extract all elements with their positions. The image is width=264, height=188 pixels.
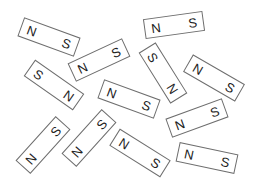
magnet-pole-left: S: [31, 66, 46, 82]
magnet-pole-right: S: [220, 155, 231, 170]
magnet-pole-right: N: [165, 81, 181, 96]
bar-magnet: N S: [176, 142, 239, 174]
magnet-pole-left: N: [117, 135, 132, 151]
magnet-pole-right: S: [140, 98, 153, 113]
bar-magnet: N S: [17, 17, 80, 56]
magnet-pole-right: S: [223, 80, 237, 96]
magnet-pole-left: N: [105, 85, 118, 100]
magnet-pole-left: N: [23, 151, 39, 167]
magnet-pole-right: S: [187, 15, 197, 29]
magnet-pole-right: N: [61, 87, 76, 103]
magnet-pole-left: N: [183, 147, 195, 162]
magnet-pole-right: S: [208, 104, 221, 119]
magnet-pole-left: N: [191, 61, 206, 77]
magnets-diagram: N S N S N S S N S N N S N S N S N S N S …: [0, 0, 264, 188]
magnet-pole-left: S: [145, 50, 161, 64]
bar-magnet: N S: [165, 98, 228, 137]
magnet-pole-left: N: [173, 117, 186, 132]
magnet-pole-right: S: [60, 36, 73, 51]
bar-magnet: N S: [109, 129, 170, 178]
magnet-pole-right: S: [94, 117, 109, 132]
magnet-pole-right: S: [48, 124, 63, 139]
magnet-pole-right: S: [109, 44, 122, 59]
bar-magnet: N S: [15, 116, 70, 174]
bar-magnet: N S: [143, 11, 205, 39]
bar-magnet: N S: [61, 109, 116, 167]
magnet-pole-right: S: [149, 155, 163, 171]
magnet-pole-left: N: [75, 60, 89, 76]
bar-magnet: N S: [183, 54, 245, 101]
magnet-pole-left: N: [150, 20, 161, 34]
magnet-pole-left: N: [25, 23, 38, 38]
magnet-pole-left: N: [69, 144, 85, 160]
